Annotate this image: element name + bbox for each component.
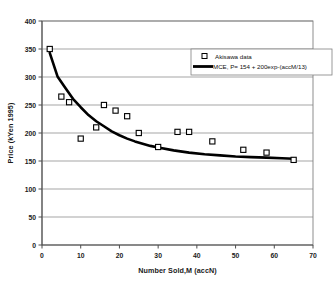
y-tick-label: 400	[25, 18, 37, 25]
x-tick-label: 30	[154, 252, 162, 259]
data-point-marker	[175, 129, 180, 134]
y-tick-label: 100	[25, 186, 37, 193]
legend-marker-akisawa-data	[202, 54, 207, 59]
legend-box	[191, 49, 332, 75]
legend-label-akisawa-data: Akisawa data	[215, 53, 252, 60]
x-tick-label: 50	[232, 252, 240, 259]
y-tick-label: 300	[25, 74, 37, 81]
legend-label-mce-curve: MCE, P= 154 + 200exp-(accM/13)	[213, 63, 307, 70]
x-tick-label: 10	[77, 252, 85, 259]
y-tick-label: 150	[25, 158, 37, 165]
x-axis-title: Number Sold,M (accN)	[138, 266, 217, 275]
data-point-marker	[291, 157, 296, 162]
data-point-marker	[113, 108, 118, 113]
x-axis-ticks: 010203040506070	[40, 245, 317, 259]
y-tick-label: 250	[25, 102, 37, 109]
data-point-marker	[101, 102, 106, 107]
data-point-marker	[210, 139, 215, 144]
data-point-marker	[241, 147, 246, 152]
data-point-marker	[47, 46, 52, 51]
x-tick-label: 60	[271, 252, 279, 259]
x-tick-label: 20	[116, 252, 124, 259]
data-point-marker	[125, 114, 130, 119]
y-axis-title: Price (kYen 1995)	[6, 102, 15, 163]
y-axis-ticks: 050100150200250300350400	[25, 18, 42, 249]
y-tick-label: 0	[32, 242, 36, 249]
y-tick-label: 350	[25, 46, 37, 53]
chart-figure: 050100150200250300350400010203040506070N…	[0, 0, 334, 292]
x-tick-label: 70	[309, 252, 317, 259]
x-tick-label: 0	[40, 252, 44, 259]
data-point-marker	[264, 150, 269, 155]
chart-legend: Akisawa dataMCE, P= 154 + 200exp-(accM/1…	[191, 49, 332, 75]
chart-svg: 050100150200250300350400010203040506070N…	[0, 0, 334, 292]
data-point-marker	[94, 125, 99, 130]
data-point-marker	[59, 94, 64, 99]
x-tick-label: 40	[193, 252, 201, 259]
data-point-marker	[67, 100, 72, 105]
data-point-marker	[78, 136, 83, 141]
data-point-marker	[187, 129, 192, 134]
data-point-marker	[136, 130, 141, 135]
y-tick-label: 200	[25, 130, 37, 137]
y-tick-label: 50	[28, 214, 36, 221]
data-point-marker	[156, 144, 161, 149]
